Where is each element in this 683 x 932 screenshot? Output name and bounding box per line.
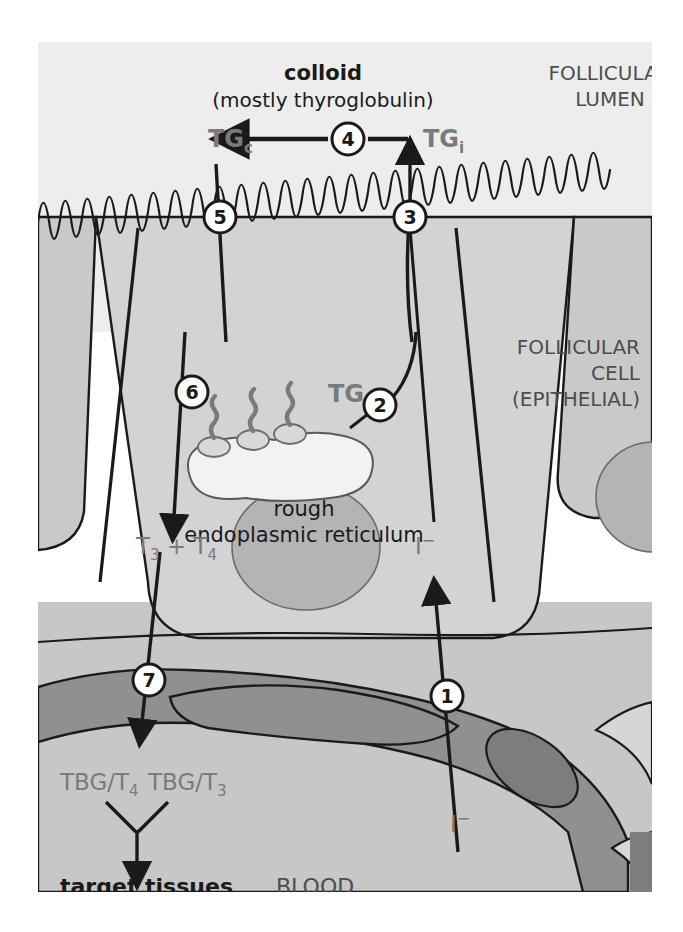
tg-colloid-base: TG — [208, 125, 244, 153]
tbg-t3-subscript: 3 — [217, 782, 227, 800]
step-badge-3-label: 3 — [403, 206, 416, 228]
step-badge-4[interactable]: 4 — [332, 123, 364, 155]
tg-iodinated-subscript: i — [459, 139, 464, 157]
step-badge-5[interactable]: 5 — [204, 201, 236, 233]
step-badge-6[interactable]: 6 — [176, 376, 208, 408]
step-badge-1[interactable]: 1 — [431, 680, 463, 712]
tbg-t3-base: TBG/T — [147, 769, 218, 795]
target-tissues-label: target tissues — [60, 874, 233, 892]
tg-iodinated-label: TGi — [423, 125, 464, 157]
t4-plus: + T — [160, 533, 209, 559]
tbg-t4-base: TBG/T — [59, 769, 130, 795]
t4-subscript: 4 — [208, 546, 218, 564]
t3-subscript: 3 — [150, 546, 160, 564]
diagram-svg: 5 3 4 6 2 — [38, 42, 652, 892]
rer-label-line1: rough — [274, 497, 335, 521]
iodide-cell-superscript: − — [422, 531, 435, 550]
step-badge-7-label: 7 — [142, 669, 155, 691]
blood-label: BLOOD — [276, 874, 354, 892]
step-badge-2-label: 2 — [373, 394, 386, 416]
tbg-t4-subscript: 4 — [129, 782, 139, 800]
follicular-cell-label-line1: FOLLICULAR — [517, 335, 640, 359]
blood-wedge-right — [630, 832, 652, 892]
step-badge-4-label: 4 — [341, 128, 354, 150]
thyroid-hormone-synthesis-diagram: 5 3 4 6 2 — [38, 42, 652, 892]
rer-label-line2: endoplasmic reticulum — [184, 523, 424, 547]
step-badge-1-label: 1 — [440, 685, 453, 707]
step-badge-5-label: 5 — [213, 206, 226, 228]
follicular-lumen-label-line2: LUMEN — [575, 87, 645, 111]
t3-base: T — [135, 533, 151, 559]
tg-iodinated-base: TG — [423, 125, 459, 153]
colloid-subtitle: (mostly thyroglobulin) — [212, 88, 433, 112]
figure-root: 5 3 4 6 2 — [0, 0, 683, 932]
iodide-cell-base: I — [415, 533, 422, 559]
follicular-cell-left — [38, 217, 96, 550]
step-badge-3[interactable]: 3 — [394, 201, 426, 233]
tg-label: TG — [328, 380, 364, 408]
tg-colloid-subscript: c — [244, 139, 253, 157]
step-badge-2[interactable]: 2 — [364, 389, 396, 421]
iodide-blood-base: I — [450, 811, 457, 837]
follicular-cell-label-line3: (EPITHELIAL) — [512, 387, 640, 411]
follicular-lumen-label-line1: FOLLICULAR — [548, 61, 652, 85]
follicular-cell-label-line2: CELL — [591, 361, 641, 385]
step-badge-6-label: 6 — [185, 381, 198, 403]
colloid-title: colloid — [284, 61, 362, 85]
iodide-blood-superscript: − — [457, 809, 470, 828]
step-badge-7[interactable]: 7 — [133, 664, 165, 696]
